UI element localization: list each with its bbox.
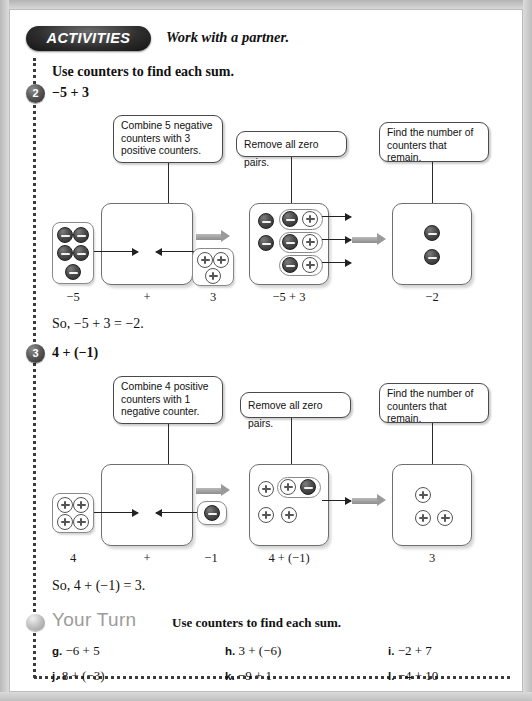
- counter-negative: [282, 211, 298, 227]
- counter-positive: [57, 514, 73, 530]
- gray-step-arrow-3a: [196, 484, 230, 497]
- tray-negative-1: [197, 501, 227, 525]
- counter-negative: [57, 227, 73, 243]
- your-turn-subtitle: Use counters to find each sum.: [172, 615, 341, 631]
- counter-negative: [65, 264, 81, 280]
- counter-positive: [213, 252, 229, 268]
- counter-positive: [73, 497, 89, 513]
- tray-negative-5: [52, 222, 94, 284]
- exercise-g: g. −6 + 5: [52, 643, 100, 659]
- callout-connector-remove-3: [291, 418, 292, 470]
- exercise-i-text: −2 + 7: [398, 643, 432, 658]
- header-subtitle: Work with a partner.: [166, 29, 289, 46]
- remove-pair-arrow-2: [322, 239, 351, 240]
- counter-negative: [73, 227, 89, 243]
- callout-combine-3: Combine 4 positive counters with 1 negat…: [113, 376, 223, 424]
- counter-positive: [258, 507, 274, 523]
- page-edge-right: [523, 0, 532, 701]
- counter-negative: [424, 225, 440, 241]
- counter-negative: [258, 213, 274, 229]
- zero-pair-group: [279, 232, 323, 253]
- page-edge-bottom: [0, 692, 532, 701]
- exercise-l: l. −4 + 10: [388, 668, 438, 684]
- instruction-text: Use counters to find each sum.: [52, 64, 234, 80]
- tray-positive-3: [192, 248, 234, 286]
- page-edge-top: [0, 0, 532, 9]
- caption-plus-2: +: [122, 290, 172, 305]
- caption-middle-2: −5 + 3: [249, 290, 329, 305]
- conclusion-3: So, 4 + (−1) = 3.: [52, 578, 145, 594]
- remove-pair-arrow-2: [322, 216, 351, 217]
- gray-step-arrow-2a: [196, 230, 230, 243]
- counter-negative: [282, 257, 298, 273]
- dotted-spine-vertical: [33, 58, 36, 678]
- exercise-g-label: g.: [52, 645, 62, 657]
- exercise-j-text: 8 + (−3): [62, 668, 105, 683]
- counter-negative: [282, 234, 298, 250]
- zero-pair-group: [277, 477, 321, 498]
- your-turn-bullet-icon: [26, 614, 45, 631]
- exercise-k-label: k.: [225, 670, 235, 682]
- tray-positive-4: [52, 493, 94, 533]
- counter-negative: [73, 245, 89, 261]
- work-mat-2: [101, 203, 193, 285]
- caption-left-3: 4: [48, 551, 98, 566]
- exercise-g-text: −6 + 5: [65, 643, 99, 658]
- activities-badge-label: ACTIVITIES: [26, 26, 151, 51]
- counter-positive: [205, 268, 221, 284]
- zero-pair-group: [279, 255, 323, 276]
- counter-negative: [300, 479, 316, 495]
- counter-positive: [302, 211, 318, 227]
- caption-middle-3: 4 + (−1): [249, 551, 329, 566]
- conclusion-2: So, −5 + 3 = −2.: [52, 316, 144, 332]
- gray-step-arrow-3b: [352, 494, 386, 507]
- exercise-l-text: −4 + 10: [398, 668, 439, 683]
- exercise-i: i. −2 + 7: [388, 643, 432, 659]
- counter-positive: [73, 514, 89, 530]
- callout-remove-2: Remove all zero pairs.: [236, 131, 347, 157]
- result-mat-3: [392, 464, 472, 546]
- counter-negative: [424, 249, 440, 265]
- counter-positive: [258, 481, 274, 497]
- caption-result-2: −2: [392, 290, 472, 305]
- counter-positive: [302, 257, 318, 273]
- zero-pair-group: [279, 209, 323, 230]
- remove-pair-arrow-2: [322, 262, 351, 263]
- callout-remove-3: Remove all zero pairs.: [240, 392, 351, 418]
- exercise-j: j. 8 + (−3): [52, 668, 104, 684]
- caption-right-2: 3: [188, 290, 238, 305]
- exercise-k: k. −9 + 1: [225, 668, 272, 684]
- flow-arrow-into-mat-left-3: [94, 512, 138, 513]
- flow-arrow-into-mat-right-3: [156, 512, 200, 513]
- callout-combine-2: Combine 5 negative counters with 3 posit…: [113, 115, 223, 163]
- exercise-h-label: h.: [225, 645, 235, 657]
- counter-positive: [280, 479, 296, 495]
- result-mat-2: [392, 203, 472, 285]
- activity-number-2: 2: [26, 84, 45, 103]
- flow-arrow-into-mat-left-2: [94, 251, 138, 252]
- exercise-j-label: j.: [52, 670, 58, 682]
- caption-left-2: −5: [48, 290, 98, 305]
- counter-negative: [57, 245, 73, 261]
- exercise-i-label: i.: [388, 645, 394, 657]
- caption-result-3: 3: [392, 551, 472, 566]
- counter-negative: [204, 505, 220, 521]
- remove-pair-arrow-3: [322, 500, 351, 501]
- caption-plus-3: +: [122, 551, 172, 566]
- work-mat-zeropairs-3: [249, 464, 329, 546]
- counter-positive: [57, 497, 73, 513]
- caption-right-3: −1: [186, 551, 236, 566]
- activities-badge: ACTIVITIES: [26, 26, 151, 51]
- callout-connector-remove-2: [291, 157, 292, 209]
- exercise-h-text: 3 + (−6): [238, 643, 281, 658]
- activity-number-3: 3: [26, 344, 45, 363]
- activity-expression-3: 4 + (−1): [52, 345, 98, 361]
- counter-positive: [197, 252, 213, 268]
- your-turn-title: Your Turn: [52, 609, 136, 631]
- counter-positive: [437, 510, 453, 526]
- counter-positive: [281, 507, 297, 523]
- work-mat-3: [101, 464, 193, 546]
- counter-positive: [415, 487, 431, 503]
- callout-find-3: Find the number of counters that remain.: [379, 383, 489, 423]
- callout-find-2: Find the number of counters that remain.: [379, 122, 489, 162]
